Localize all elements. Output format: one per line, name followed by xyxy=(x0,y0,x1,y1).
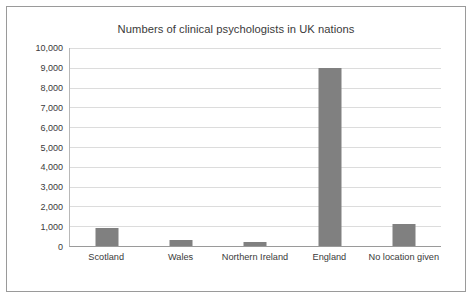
bar-wales xyxy=(170,240,193,246)
bar-england xyxy=(318,68,341,246)
bar-slot xyxy=(367,48,441,246)
bar-scotland xyxy=(96,228,119,246)
bar-northern-ireland xyxy=(244,242,267,246)
y-axis-tick-label: 8,000 xyxy=(11,83,63,93)
x-axis-tick-label: No location given xyxy=(367,252,441,262)
bar-slot xyxy=(70,48,144,246)
bar-slot xyxy=(293,48,367,246)
bar-slot xyxy=(218,48,292,246)
y-axis-tick-label: 9,000 xyxy=(11,63,63,73)
y-axis-tick-labels: 10,000 9,000 8,000 7,000 6,000 5,000 4,0… xyxy=(7,48,63,247)
x-axis-tick-label: Northern Ireland xyxy=(218,252,292,262)
y-axis-tick-label: 0 xyxy=(11,242,63,252)
y-axis-tick-label: 5,000 xyxy=(11,143,63,153)
chart-title: Numbers of clinical psychologists in UK … xyxy=(7,23,465,35)
y-axis-tick-label: 4,000 xyxy=(11,162,63,172)
y-axis-tick-label: 6,000 xyxy=(11,123,63,133)
bar-slot xyxy=(144,48,218,246)
y-axis-tick-label: 7,000 xyxy=(11,103,63,113)
x-axis-tick-label: Scotland xyxy=(69,252,143,262)
chart-container: Numbers of clinical psychologists in UK … xyxy=(6,6,466,292)
bar-series xyxy=(70,48,441,246)
y-axis-tick-label: 10,000 xyxy=(11,43,63,53)
plot-area xyxy=(69,48,441,247)
y-axis-tick-label: 3,000 xyxy=(11,182,63,192)
x-axis-tick-label: Wales xyxy=(143,252,217,262)
x-axis-tick-label: England xyxy=(292,252,366,262)
y-axis-tick-label: 1,000 xyxy=(11,222,63,232)
bar-no-location-given xyxy=(392,224,415,246)
y-axis-tick-label: 2,000 xyxy=(11,202,63,212)
